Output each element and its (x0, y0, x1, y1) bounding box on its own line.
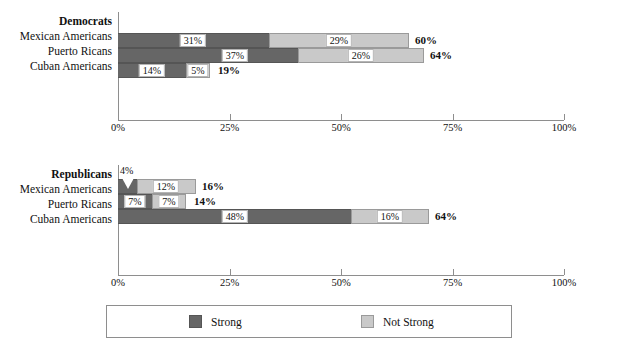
x-tick-label-100: 100% (552, 122, 577, 133)
x-tick-25 (230, 269, 231, 275)
x-tick-label-0: 0% (111, 277, 125, 288)
x-tick-label-25: 25% (220, 122, 239, 133)
bar-value-strong: 37% (222, 49, 248, 62)
x-tick-0 (118, 114, 119, 120)
group-label-republicans: Republicans (0, 167, 112, 182)
bar-value-strong: 48% (222, 210, 248, 223)
legend-label-not-strong: Not Strong (383, 316, 434, 328)
category-label-puerto-ricans: Puerto Ricans (0, 44, 112, 59)
x-tick-75 (453, 114, 454, 120)
bar-total-label: 14% (194, 195, 216, 208)
x-tick-25 (230, 114, 231, 120)
x-tick-label-75: 75% (443, 122, 462, 133)
x-tick-100 (564, 269, 565, 275)
chart-legend: Strong Not Strong (106, 305, 512, 338)
callout-pointer-icon (122, 178, 134, 189)
x-tick-label-50: 50% (331, 122, 350, 133)
category-label-mexican-americans: Mexican Americans (0, 182, 112, 197)
group-label-democrats: Democrats (0, 14, 112, 29)
x-axis-line (118, 120, 564, 121)
x-tick-0 (118, 269, 119, 275)
bar-value-not-strong: 5% (187, 64, 208, 77)
x-tick-75 (453, 269, 454, 275)
bar-value-strong: 7% (124, 195, 145, 208)
bar-total-label: 60% (415, 34, 437, 47)
legend-label-strong: Strong (211, 316, 242, 328)
category-labels-republicans: Republicans Mexican Americans Puerto Ric… (0, 167, 112, 227)
bar-total-label: 19% (218, 64, 240, 77)
x-tick-label-100: 100% (552, 277, 577, 288)
bar-total-label: 64% (435, 210, 457, 223)
legend-item-not-strong: Not Strong (361, 315, 434, 328)
category-label-cuban-americans: Cuban Americans (0, 59, 112, 74)
legend-swatch-not-strong-icon (361, 315, 374, 328)
bar-value-not-strong: 29% (326, 34, 352, 47)
x-tick-label-50: 50% (331, 277, 350, 288)
bar-value-not-strong: 26% (348, 49, 374, 62)
bar-total-label: 64% (430, 49, 452, 62)
bar-value-not-strong: 16% (377, 210, 403, 223)
category-label-cuban-americans: Cuban Americans (0, 212, 112, 227)
category-label-mexican-americans: Mexican Americans (0, 29, 112, 44)
callout-label-4-percent: 4% (120, 165, 133, 176)
legend-item-strong: Strong (189, 315, 242, 328)
bar-segment-strong (118, 48, 298, 63)
x-tick-50 (341, 114, 342, 120)
category-label-puerto-ricans: Puerto Ricans (0, 197, 112, 212)
x-tick-label-25: 25% (220, 277, 239, 288)
category-labels-democrats: Democrats Mexican Americans Puerto Rican… (0, 14, 112, 74)
bar-value-strong: 14% (139, 64, 165, 77)
x-tick-100 (564, 114, 565, 120)
x-tick-50 (341, 269, 342, 275)
legend-swatch-strong-icon (189, 315, 202, 328)
x-tick-label-0: 0% (111, 122, 125, 133)
bar-total-label: 16% (202, 180, 224, 193)
x-tick-label-75: 75% (443, 277, 462, 288)
bar-value-not-strong: 7% (158, 195, 179, 208)
bar-value-not-strong: 12% (153, 180, 179, 193)
bar-value-strong: 31% (180, 34, 206, 47)
x-axis-line (118, 275, 564, 276)
